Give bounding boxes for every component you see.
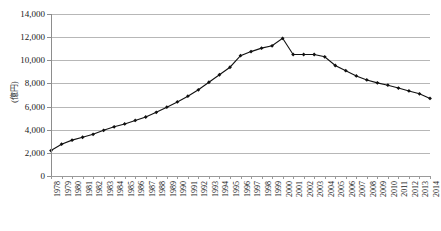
x-axis-tick-mark [314, 176, 315, 179]
x-axis-tick-label: 2011 [401, 181, 409, 197]
x-axis-tick-mark [335, 176, 336, 179]
data-point-marker [249, 50, 253, 54]
y-axis-tick-label: 0 [41, 172, 46, 181]
data-point-marker [70, 138, 74, 142]
x-axis-tick-label: 2007 [359, 181, 367, 197]
x-axis-tick-mark [356, 176, 357, 179]
x-axis-tick-mark [93, 176, 94, 179]
x-axis-tick-label: 2002 [307, 181, 315, 197]
x-axis-tick-mark [51, 176, 52, 179]
y-axis-tick-label: 6,000 [25, 102, 45, 111]
x-axis-tick-label: 2009 [380, 181, 388, 197]
x-axis-tick-mark [262, 176, 263, 179]
x-axis-tick-label: 1986 [138, 181, 146, 197]
x-axis-tick-label: 2008 [370, 181, 378, 197]
x-axis-tick-mark [167, 176, 168, 179]
y-axis-tick-label: 14,000 [20, 10, 45, 19]
data-point-marker [407, 89, 411, 93]
x-axis-tick-mark [72, 176, 73, 179]
data-point-marker [397, 86, 401, 90]
data-point-marker [428, 97, 432, 101]
data-point-marker [81, 135, 85, 139]
x-axis-tick-mark [325, 176, 326, 179]
series-markers [49, 36, 432, 152]
plot-area: 02,0004,0006,0008,00010,00012,00014,000 [51, 14, 430, 176]
x-axis-tick-label: 1997 [254, 181, 262, 197]
x-axis-tick-label: 2012 [412, 181, 420, 197]
x-axis-tick-mark [104, 176, 105, 179]
x-axis-tick-label: 1999 [275, 181, 283, 197]
x-axis-tick-label: 1998 [265, 181, 273, 197]
x-axis-tick-mark [272, 176, 273, 179]
data-point-marker [354, 74, 358, 78]
x-axis-tick-label: 1981 [86, 181, 94, 197]
x-axis-tick-label: 1979 [65, 181, 73, 197]
data-point-marker [386, 83, 390, 87]
data-series-group [51, 14, 430, 176]
x-axis-tick-label: 1995 [233, 181, 241, 197]
data-point-marker [91, 132, 95, 136]
x-axis-tick-mark [283, 176, 284, 179]
x-axis-tick-mark [398, 176, 399, 179]
x-axis-tick-mark [114, 176, 115, 179]
x-axis-tick-mark [146, 176, 147, 179]
x-axis-tick-mark [388, 176, 389, 179]
x-axis-tick-label: 1978 [54, 181, 62, 197]
x-axis-tick-label: 1991 [191, 181, 199, 197]
data-point-marker [365, 78, 369, 82]
x-axis-tick-label: 1992 [201, 181, 209, 197]
x-axis-tick-mark [219, 176, 220, 179]
x-axis-tick-label: 2013 [422, 181, 430, 197]
x-axis-tick-label: 2010 [391, 181, 399, 197]
x-axis-tick-mark [409, 176, 410, 179]
x-axis-tick-label: 2001 [296, 181, 304, 197]
x-axis-tick-mark [419, 176, 420, 179]
data-point-marker [165, 105, 169, 109]
data-point-marker [302, 53, 306, 57]
x-axis-tick-label: 1994 [222, 181, 230, 197]
x-axis-tick-mark [188, 176, 189, 179]
x-axis-tick-label: 1980 [75, 181, 83, 197]
x-axis-tick-mark [135, 176, 136, 179]
x-axis-tick-mark [83, 176, 84, 179]
x-axis-tick-label: 1989 [170, 181, 178, 197]
x-axis-tick-label: 2004 [328, 181, 336, 197]
x-axis-tick-label: 1982 [96, 181, 104, 197]
data-point-marker [154, 110, 158, 114]
x-axis-tick-mark [156, 176, 157, 179]
x-axis-tick-label: 1984 [117, 181, 125, 197]
x-axis-tick-mark [367, 176, 368, 179]
x-axis-tick-label: 1983 [107, 181, 115, 197]
x-axis-tick-mark [230, 176, 231, 179]
data-point-marker [375, 81, 379, 85]
x-axis-tick-label: 1990 [180, 181, 188, 197]
x-axis-tick-mark [304, 176, 305, 179]
data-point-marker [123, 122, 127, 126]
y-axis-tick-label: 12,000 [20, 33, 45, 42]
x-axis-tick-label: 1993 [212, 181, 220, 197]
data-point-marker [260, 46, 264, 50]
x-axis-tick-label: 1988 [159, 181, 167, 197]
x-axis-tick-mark [177, 176, 178, 179]
data-point-marker [312, 53, 316, 57]
data-point-marker [344, 69, 348, 73]
x-axis-tick-mark [198, 176, 199, 179]
y-axis-tick-label: 10,000 [20, 56, 45, 65]
x-axis-tick-label: 1996 [244, 181, 252, 197]
x-axis-tick-mark [346, 176, 347, 179]
x-axis-tick-label: 2014 [433, 181, 441, 197]
data-point-marker [144, 115, 148, 119]
x-axis-tick-mark [377, 176, 378, 179]
y-axis-unit-label: (億円) [11, 81, 19, 102]
data-point-marker [418, 92, 422, 96]
x-axis-tick-mark [293, 176, 294, 179]
data-point-marker [133, 119, 137, 123]
y-axis-tick-label: 4,000 [25, 125, 45, 134]
x-axis-tick-label: 2006 [349, 181, 357, 197]
x-axis-tick-label: 2003 [317, 181, 325, 197]
data-point-marker [112, 125, 116, 129]
x-axis-tick-label: 1987 [149, 181, 157, 197]
x-axis-tick-mark [209, 176, 210, 179]
x-axis-tick-mark [241, 176, 242, 179]
